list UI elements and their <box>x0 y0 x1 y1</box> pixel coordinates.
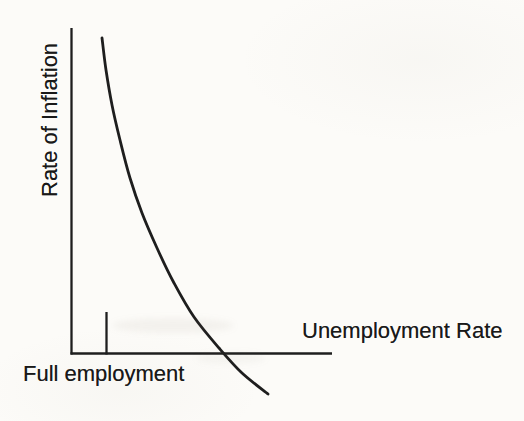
phillips-curve-line <box>102 38 268 394</box>
x-axis-label: Unemployment Rate <box>302 319 503 343</box>
phillips-curve-chart <box>0 0 524 421</box>
scanned-page: Rate of Inflation Unemployment Rate Full… <box>0 0 524 421</box>
full-employment-label: Full employment <box>23 362 184 386</box>
y-axis-label: Rate of Inflation <box>38 43 62 197</box>
